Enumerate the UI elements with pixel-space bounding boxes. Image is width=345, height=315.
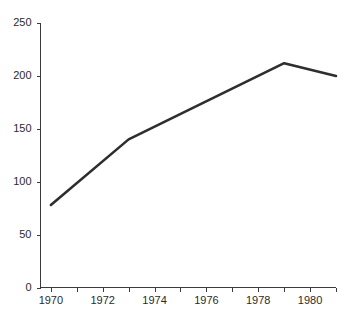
y-tick-label: 0 <box>25 281 31 293</box>
x-tick-label: 1970 <box>39 294 63 306</box>
y-tick-label: 150 <box>13 122 31 134</box>
x-tick-label: 1980 <box>298 294 322 306</box>
x-tick-label: 1978 <box>246 294 270 306</box>
y-tick-label: 250 <box>13 16 31 28</box>
y-tick-label: 200 <box>13 69 31 81</box>
x-tick-label: 1974 <box>142 294 166 306</box>
line-chart: 050100150200250 197019721974197619781980 <box>0 0 345 315</box>
y-tick-label: 50 <box>19 228 31 240</box>
chart-canvas: 050100150200250 197019721974197619781980 <box>0 0 345 315</box>
x-tick-label: 1976 <box>194 294 218 306</box>
y-tick-label: 100 <box>13 175 31 187</box>
x-tick-label: 1972 <box>90 294 114 306</box>
chart-background <box>0 0 345 315</box>
